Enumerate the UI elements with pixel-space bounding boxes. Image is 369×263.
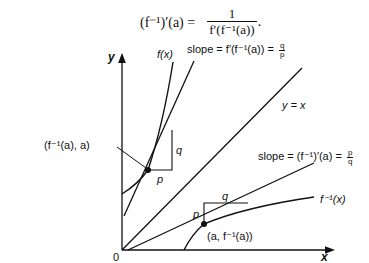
lower-slope-label: slope = (f⁻¹)′(a) = p q <box>258 149 353 166</box>
lower-triangle-p: p <box>193 208 199 220</box>
upper-slope-label: slope = f′(f⁻¹(a)) = q p <box>187 42 285 59</box>
identity-line-label: y = x <box>282 99 306 111</box>
inverse-function-diagram <box>0 0 369 263</box>
y-axis-label: y <box>108 51 115 63</box>
lower-slope-text: slope = (f⁻¹)′(a) = <box>258 150 342 162</box>
x-axis-label: x <box>321 251 328 263</box>
lower-slope-fraction: p q <box>347 149 353 166</box>
lower-point-label: (a, f⁻¹(a)) <box>207 230 253 242</box>
upper-triangle-q: q <box>176 144 182 156</box>
lower-point <box>201 221 207 227</box>
f-curve-label: f(x) <box>157 48 173 60</box>
lower-slope-den: q <box>348 158 352 166</box>
f-tangent-line <box>124 61 194 216</box>
upper-point-label: (f⁻¹(a), a) <box>44 139 90 151</box>
upper-slope-den: p <box>280 51 284 59</box>
finv-curve-label: f⁻¹(x) <box>320 193 346 205</box>
f-curve <box>122 62 173 194</box>
upper-point <box>145 167 151 173</box>
origin-label: 0 <box>113 251 119 263</box>
upper-triangle-p: p <box>157 173 163 185</box>
upper-slope-fraction: q p <box>279 42 285 59</box>
upper-slope-text: slope = f′(f⁻¹(a)) = <box>187 43 274 55</box>
lower-triangle-q: q <box>222 190 228 202</box>
